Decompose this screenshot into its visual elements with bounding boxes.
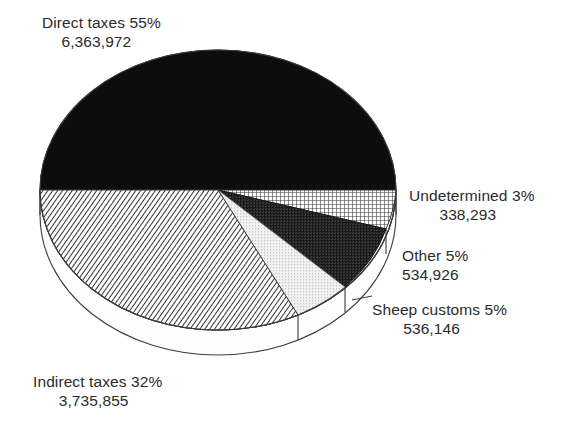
slice-label-sheep-customs-line1: Sheep customs 5% xyxy=(372,300,507,319)
slice-label-sheep-customs-line2: 536,146 xyxy=(372,319,507,338)
slice-label-undetermined-line1: Undetermined 3% xyxy=(409,186,535,205)
slice-label-sheep-customs: Sheep customs 5% 536,146 xyxy=(372,300,507,338)
slice-label-undetermined: Undetermined 3% 338,293 xyxy=(409,186,535,224)
slice-label-direct-taxes: Direct taxes 55% 6,363,972 xyxy=(42,13,161,51)
slice-label-undetermined-line2: 338,293 xyxy=(409,205,535,224)
slice-label-other: Other 5% 534,926 xyxy=(402,246,468,284)
slice-label-indirect-taxes-line2: 3,735,855 xyxy=(33,391,162,410)
slice-label-other-line2: 534,926 xyxy=(402,265,468,284)
slice-label-indirect-taxes: Indirect taxes 32% 3,735,855 xyxy=(33,372,162,410)
pie-slice-direct-taxes xyxy=(40,50,396,190)
slice-label-direct-taxes-line1: Direct taxes 55% xyxy=(42,13,161,32)
slice-label-other-line1: Other 5% xyxy=(402,246,468,265)
slice-label-indirect-taxes-line1: Indirect taxes 32% xyxy=(33,372,162,391)
pie-chart: Direct taxes 55% 6,363,972 Undetermined … xyxy=(0,0,570,433)
slice-label-direct-taxes-line2: 6,363,972 xyxy=(42,32,161,51)
pie-slices xyxy=(40,50,396,330)
